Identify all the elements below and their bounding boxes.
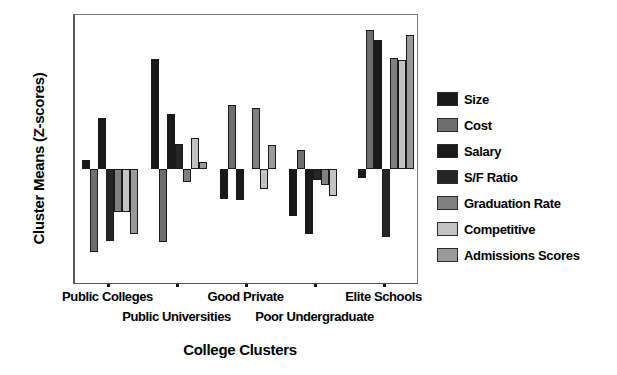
bar xyxy=(106,169,114,241)
legend-item[interactable]: Cost xyxy=(437,112,580,138)
plot-area xyxy=(73,14,418,284)
legend-item[interactable]: Admissions Scores xyxy=(437,242,580,268)
bar-cluster xyxy=(289,15,345,283)
bar xyxy=(374,40,382,169)
bar xyxy=(175,144,183,169)
legend-item-label: Competitive xyxy=(464,222,535,237)
bar xyxy=(151,59,159,169)
bar xyxy=(98,118,106,170)
legend-item-label: S/F Ratio xyxy=(464,170,518,185)
legend-item[interactable]: Competitive xyxy=(437,216,580,242)
bar xyxy=(191,138,199,170)
legend-item-label: Cost xyxy=(464,118,492,133)
bar-cluster xyxy=(151,15,207,283)
legend-item-label: Salary xyxy=(464,144,501,159)
bar xyxy=(122,169,130,211)
x-axis-tick-mark xyxy=(245,284,248,287)
bar xyxy=(114,169,122,211)
bar xyxy=(260,169,268,188)
bar xyxy=(321,169,329,185)
bar xyxy=(167,114,175,170)
bar-cluster xyxy=(220,15,276,283)
cluster-means-bar-chart: Cluster Means (Z-scores) 2.01.51.0.50.0-… xyxy=(0,0,617,375)
x-axis-title: College Clusters xyxy=(0,341,480,358)
bar-cluster xyxy=(82,15,138,283)
bar xyxy=(228,105,236,169)
x-axis-category-label: Poor Undergraduate xyxy=(225,309,405,324)
legend-item-label: Admissions Scores xyxy=(464,248,580,263)
bar xyxy=(297,150,305,169)
legend: SizeCostSalaryS/F RatioGraduation RateCo… xyxy=(437,86,580,268)
bar xyxy=(358,169,366,177)
legend-item-label: Graduation Rate xyxy=(464,196,561,211)
legend-swatch-icon xyxy=(437,170,458,184)
legend-swatch-icon xyxy=(437,144,458,158)
legend-swatch-icon xyxy=(437,222,458,236)
bar xyxy=(329,169,337,195)
x-axis-tick-mark xyxy=(176,284,179,287)
bar xyxy=(90,169,98,252)
legend-swatch-icon xyxy=(437,92,458,106)
legend-swatch-icon xyxy=(437,196,458,210)
bar xyxy=(220,169,228,198)
bar xyxy=(366,30,374,169)
bar xyxy=(305,169,313,234)
bar xyxy=(252,108,260,170)
legend-item[interactable]: Graduation Rate xyxy=(437,190,580,216)
y-axis-title: Cluster Means (Z-scores) xyxy=(30,29,47,289)
bar xyxy=(289,169,297,215)
bar xyxy=(82,160,90,169)
bar xyxy=(236,169,244,200)
bar xyxy=(199,162,207,170)
bar xyxy=(268,145,276,170)
bar-group xyxy=(75,15,417,283)
bar xyxy=(406,35,414,169)
bar xyxy=(313,169,321,180)
bar xyxy=(130,169,138,234)
x-axis-tick-mark xyxy=(314,284,317,287)
x-axis-category-label: Elite Schools xyxy=(294,289,474,304)
bar xyxy=(183,169,191,182)
legend-item[interactable]: S/F Ratio xyxy=(437,164,580,190)
bar xyxy=(398,60,406,170)
bar xyxy=(382,169,390,237)
legend-item-label: Size xyxy=(464,92,489,107)
x-axis-tick-mark xyxy=(383,284,386,287)
bar xyxy=(390,58,398,169)
bar xyxy=(159,169,167,242)
legend-item[interactable]: Salary xyxy=(437,138,580,164)
legend-swatch-icon xyxy=(437,248,458,262)
x-axis-tick-mark xyxy=(107,284,110,287)
legend-swatch-icon xyxy=(437,118,458,132)
bar-cluster xyxy=(358,15,414,283)
legend-item[interactable]: Size xyxy=(437,86,580,112)
